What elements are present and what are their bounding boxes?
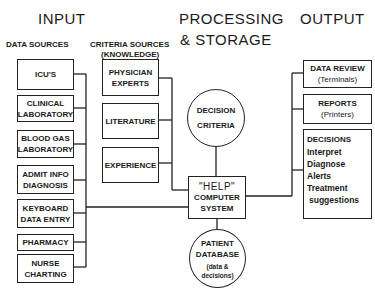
label: LITERATURE (105, 116, 155, 127)
label: PHYSICIAN (109, 67, 153, 78)
label: REPORTS (318, 98, 357, 109)
decision-item: Diagnose (307, 158, 345, 170)
label: BLOOD GAS (18, 133, 73, 144)
label: ICU'S (35, 69, 56, 80)
label: LABORATORY (18, 109, 73, 120)
label: CLINICAL (18, 98, 73, 109)
decision-item: Interpret (307, 146, 341, 158)
label: CHARTING (24, 269, 66, 280)
label: PHARMACY (22, 237, 68, 248)
label: decisions) (201, 271, 233, 280)
output-data-review: DATA REVIEW(Terminals) (303, 60, 372, 88)
label: PATIENT (201, 238, 234, 249)
label: (Printers) (318, 109, 357, 120)
label: DATABASE (196, 249, 239, 260)
label: ADMIT INFO (22, 169, 69, 180)
label: (data & (206, 262, 228, 271)
decision-criteria-node: DECISION CRITERIA (187, 89, 245, 147)
label: SYSTEM (194, 203, 240, 214)
data-source-blood-gas-laboratory: BLOOD GASLABORATORY (17, 130, 74, 158)
label: NURSE (24, 258, 66, 269)
data-source-admit-info: ADMIT INFODIAGNOSIS (17, 165, 74, 194)
data-source-pharmacy: PHARMACY (17, 234, 74, 251)
data-source-nurse-charting: NURSECHARTING (17, 254, 74, 283)
label: "HELP" (194, 181, 240, 192)
label: LABORATORY (18, 144, 73, 155)
label: KEYBOARD (21, 203, 71, 214)
criteria-source-literature: LITERATURE (102, 103, 159, 139)
decision-item: Alerts (307, 170, 331, 182)
label: DATA ENTRY (21, 214, 71, 225)
decision-item: Treatment (307, 182, 348, 194)
data-source-icus: ICU'S (17, 59, 74, 90)
data-source-clinical-laboratory: CLINICALLABORATORY (17, 95, 74, 122)
criteria-source-physician-experts: PHYSICIANEXPERTS (102, 59, 159, 96)
output-decisions: DECISIONS Interpret Diagnose Alerts Trea… (303, 129, 372, 219)
label: (Terminals) (310, 74, 365, 85)
label: COMPUTER (194, 192, 240, 203)
patient-database-node: PATIENT DATABASE (data & decisions) (189, 229, 246, 288)
label: EXPERIENCE (105, 160, 157, 171)
label: DATA REVIEW (310, 63, 365, 74)
output-reports: REPORTS(Printers) (303, 94, 372, 124)
data-source-keyboard-data-entry: KEYBOARDDATA ENTRY (17, 199, 74, 228)
label: EXPERTS (109, 78, 153, 89)
criteria-source-experience: EXPERIENCE (102, 147, 159, 183)
label: DIAGNOSIS (22, 180, 69, 191)
label: DECISION (197, 105, 236, 116)
help-computer-system: "HELP" COMPUTER SYSTEM (188, 176, 246, 219)
label: CRITERIA (197, 120, 235, 131)
decision-item: suggestions (307, 194, 359, 206)
decisions-title: DECISIONS (307, 134, 351, 146)
